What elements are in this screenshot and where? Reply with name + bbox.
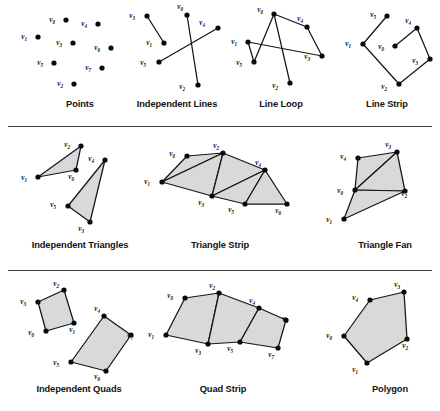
- primitives-figure: v0v4v1v3v6v5v7v2Pointsv3v0v4v1v5v2Indepe…: [0, 0, 440, 411]
- vertex-dot-triangle-fan-3: [394, 149, 399, 154]
- panel-caption-independent-lines: Independent Lines: [122, 99, 232, 110]
- vertex-label-independent-quads-1: v1: [69, 326, 75, 335]
- edge-independent-lines-1: [187, 15, 198, 85]
- vertex-dot-triangle-strip-2: [220, 150, 225, 155]
- vertex-label-triangle-fan-0: v0: [337, 187, 343, 196]
- vertex-dot-quad-strip-1: [163, 332, 168, 337]
- vertex-label-independent-triangles-0: v0: [68, 173, 74, 182]
- vertex-label-line-loop-0: v0: [257, 6, 263, 15]
- vertex-label-line-strip-4: v4: [405, 17, 411, 26]
- vertex-dot-triangle-strip-0: [184, 153, 189, 158]
- panel-caption-independent-triangles: Independent Triangles: [10, 240, 150, 251]
- primitive-panel-quad-strip: v0v2v4v6v1v3v5v7: [156, 278, 291, 373]
- vertex-dot-line-loop-0: [271, 11, 276, 16]
- vertex-dot-polygon-0: [341, 333, 346, 338]
- vertex-dot-triangle-strip-6: [284, 201, 289, 206]
- face-triangle-fan-2: [344, 190, 405, 219]
- vertex-label-points-7: v7: [85, 64, 91, 73]
- vertex-label-triangle-strip-6: v6: [275, 207, 281, 216]
- vertex-dot-polygon-2: [404, 336, 409, 341]
- edge-independent-lines-2: [159, 28, 218, 62]
- vertex-dot-line-loop-1: [245, 39, 250, 44]
- vertex-label-quad-strip-6: v6: [282, 315, 288, 324]
- vertex-dot-polygon-4: [367, 297, 372, 302]
- vertex-label-independent-triangles-5: v5: [50, 201, 56, 210]
- vertex-label-independent-lines-5: v5: [140, 59, 146, 68]
- panel-caption-line-loop: Line Loop: [236, 99, 326, 110]
- edge-line-strip-0: [363, 16, 387, 44]
- primitive-geometry-triangle-fan: v0v3v4v2v1: [318, 134, 428, 229]
- edge-line-loop-3: [248, 42, 254, 62]
- row-triangle-primitives: v2v4v0v1v5v3Independent Trianglesv0v2v4v…: [0, 128, 440, 270]
- vertex-dot-line-strip-5: [384, 13, 389, 18]
- face-independent-quads-0: [38, 290, 74, 331]
- primitive-geometry-quad-strip: v0v2v4v6v1v3v5v7: [156, 278, 291, 373]
- vertex-dot-triangle-fan-4: [355, 155, 360, 160]
- vertex-dot-triangle-strip-1: [159, 179, 164, 184]
- vertex-label-triangle-strip-2: v2: [213, 142, 219, 151]
- vertex-label-triangle-strip-3: v3: [198, 199, 204, 208]
- vertex-label-independent-lines-0: v0: [177, 3, 183, 12]
- vertex-dot-independent-triangles-0: [73, 167, 78, 172]
- vertex-label-independent-quads-3: v3: [20, 298, 26, 307]
- primitive-geometry-independent-triangles: v2v4v0v1v5v3: [22, 134, 132, 229]
- vertex-dot-triangle-strip-3: [209, 193, 214, 198]
- vertex-dot-line-strip-3: [427, 56, 432, 61]
- vertex-label-independent-quads-4: v4: [94, 305, 100, 314]
- vertex-dot-quad-strip-0: [182, 295, 187, 300]
- vertex-label-independent-triangles-3: v3: [78, 225, 84, 234]
- vertex-dot-independent-quads-1: [71, 320, 76, 325]
- vertex-dot-points-6: [108, 45, 113, 50]
- vertex-label-independent-lines-4: v4: [199, 19, 205, 28]
- vertex-label-line-strip-1: v1: [345, 40, 351, 49]
- vertex-label-triangle-fan-3: v3: [385, 141, 391, 150]
- panel-caption-triangle-strip: Triangle Strip: [160, 240, 280, 251]
- vertex-label-independent-lines-3: v3: [129, 12, 135, 21]
- vertex-label-line-loop-3: v3: [304, 53, 310, 62]
- vertex-label-polygon-0: v0: [326, 332, 332, 341]
- vertex-dot-independent-lines-2: [195, 82, 200, 87]
- vertex-dot-quad-strip-4: [256, 305, 261, 310]
- edge-line-loop-1: [307, 27, 322, 56]
- panel-caption-triangle-fan: Triangle Fan: [330, 240, 440, 251]
- primitive-panel-triangle-strip: v0v2v4v1v3v5v6: [150, 134, 295, 229]
- vertex-label-points-5: v5: [37, 59, 43, 68]
- vertex-dot-triangle-fan-1: [341, 216, 346, 221]
- vertex-dot-points-2: [71, 81, 76, 86]
- vertex-dot-points-0: [63, 17, 68, 22]
- vertex-dot-independent-triangles-5: [65, 203, 70, 208]
- vertex-label-polygon-4: v4: [352, 294, 358, 303]
- vertex-dot-independent-quads-6: [103, 368, 108, 373]
- vertex-label-quad-strip-0: v0: [167, 292, 173, 301]
- edge-independent-lines-0: [147, 16, 164, 43]
- vertex-dot-independent-triangles-1: [35, 174, 40, 179]
- vertex-dot-independent-quads-2: [61, 287, 66, 292]
- vertex-label-independent-quads-6: v6: [94, 373, 100, 382]
- vertex-label-triangle-strip-5: v5: [228, 206, 234, 215]
- primitive-panel-polygon: v3v4v0v2v1: [328, 278, 433, 373]
- divider-row2-row3: [8, 270, 432, 271]
- primitive-geometry-triangle-strip: v0v2v4v1v3v5v6: [150, 134, 295, 229]
- vertex-dot-polygon-3: [401, 289, 406, 294]
- vertex-label-line-strip-0: v0: [378, 43, 384, 52]
- vertex-label-line-loop-5: v5: [236, 59, 242, 68]
- vertex-label-independent-quads-2: v2: [53, 280, 59, 289]
- vertex-dot-points-1: [35, 34, 40, 39]
- vertex-dot-polygon-1: [364, 360, 369, 365]
- face-independent-triangles-0: [38, 146, 81, 177]
- vertex-label-independent-triangles-4: v4: [88, 155, 94, 164]
- vertex-label-quad-strip-4: v4: [249, 297, 255, 306]
- primitive-panel-independent-triangles: v2v4v0v1v5v3: [22, 134, 132, 229]
- edge-line-loop-4: [254, 14, 274, 62]
- vertex-dot-triangle-strip-5: [242, 201, 247, 206]
- primitive-panel-line-strip: v5v4v1v0v3v2: [334, 4, 434, 94]
- vertex-label-independent-lines-2: v2: [179, 83, 185, 92]
- vertex-label-points-0: v0: [49, 16, 55, 25]
- vertex-dot-line-loop-5: [251, 59, 256, 64]
- vertex-dot-independent-quads-0: [43, 328, 48, 333]
- vertex-label-triangle-strip-4: v4: [255, 159, 261, 168]
- vertex-dot-independent-triangles-4: [102, 157, 107, 162]
- vertex-dot-independent-quads-5: [68, 359, 73, 364]
- vertex-dot-line-strip-0: [392, 43, 397, 48]
- primitive-panel-triangle-fan: v0v3v4v2v1: [318, 134, 428, 229]
